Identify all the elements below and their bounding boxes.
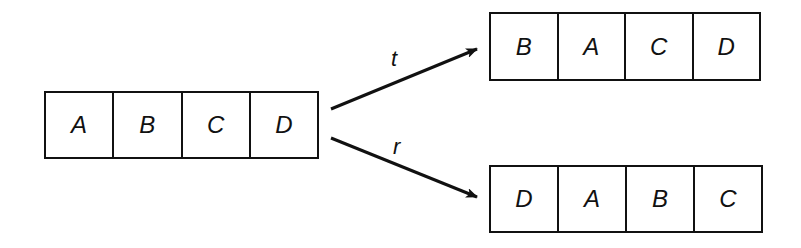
result-sequence-r: D A B C bbox=[489, 165, 763, 233]
t-cell-1: B bbox=[491, 14, 559, 79]
transform-label-r: r bbox=[393, 134, 400, 160]
t-cell-2: A bbox=[559, 14, 627, 79]
t-cell-4: D bbox=[694, 14, 760, 79]
result-sequence-t: B A C D bbox=[489, 12, 761, 81]
transform-label-t: t bbox=[391, 46, 397, 72]
t-cell-3: C bbox=[626, 14, 694, 79]
r-cell-2: A bbox=[559, 167, 627, 231]
r-cell-3: B bbox=[627, 167, 695, 231]
r-cell-4: C bbox=[695, 167, 761, 231]
arrow-t bbox=[331, 49, 477, 109]
arrow-r bbox=[331, 138, 477, 197]
r-cell-1: D bbox=[491, 167, 559, 231]
